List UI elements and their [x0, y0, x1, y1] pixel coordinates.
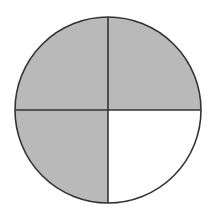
quarter-top-right [108, 17, 201, 110]
quarter-bottom-right [108, 110, 201, 203]
fraction-circle-diagram [0, 0, 224, 223]
quarter-top-left [15, 17, 108, 110]
quarter-bottom-left [15, 110, 108, 203]
